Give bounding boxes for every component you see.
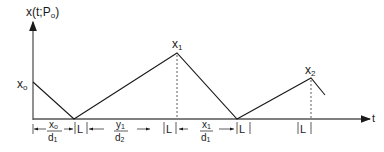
svg-text:y1: y1 (116, 119, 125, 130)
interval-y1-d2: y1 d2 (89, 119, 150, 143)
trajectory-diagram: x(t;Po) t xo x1 x2 xo d1 L y1 d2 L (0, 0, 384, 152)
svg-text:d1: d1 (201, 132, 211, 143)
interval-x1-d1: x1 d1 (179, 119, 234, 143)
interval-L-2: L (164, 122, 176, 135)
x-axis-label: t (372, 112, 375, 124)
svg-text:d2: d2 (115, 132, 125, 143)
svg-text:L: L (300, 123, 306, 135)
x2-label: x2 (305, 63, 316, 78)
interval-L-3: L (237, 122, 250, 135)
svg-text:xo: xo (49, 119, 58, 130)
svg-text:x1: x1 (202, 119, 211, 130)
y-axis-label: x(t;Po) (26, 5, 59, 20)
interval-L-4: L (298, 122, 311, 135)
trajectory-line (33, 53, 325, 119)
interval-x0-d1: xo d1 (33, 119, 73, 143)
svg-text:L: L (166, 123, 172, 135)
svg-text:L: L (239, 123, 245, 135)
x1-label: x1 (172, 37, 183, 52)
x0-label: xo (17, 77, 28, 92)
svg-text:d1: d1 (48, 132, 58, 143)
svg-text:L: L (77, 123, 83, 135)
interval-L-1: L (75, 122, 87, 135)
